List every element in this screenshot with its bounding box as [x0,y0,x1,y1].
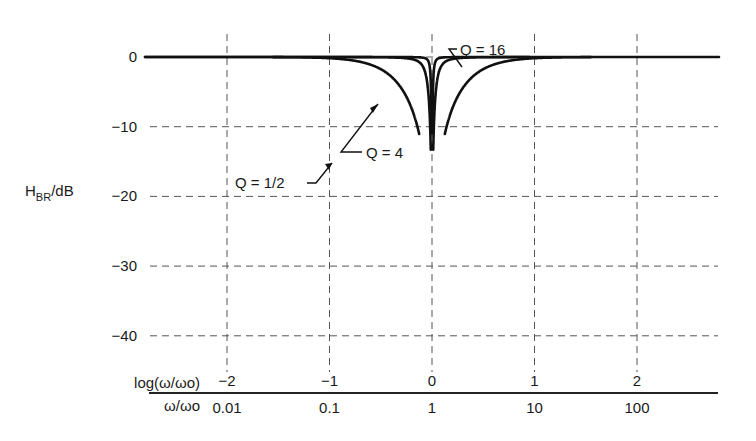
annotation-label: Q = 16 [460,41,505,58]
y-tick-label: −10 [112,118,137,135]
band-reject-filter-chart: Q = 16Q = 4Q = 1/2 0−10−20−30−40 HBR/dB … [0,0,756,441]
x-axis-log-label: log(ω/ωo) [134,374,200,391]
y-tick-label: −30 [112,257,137,274]
y-tick-label: −40 [112,327,137,344]
curve-q12 [445,57,591,134]
arrowhead-icon [325,163,332,170]
curve-q16 [145,57,432,134]
annotation-label: Q = 4 [366,144,403,161]
x-linear-tick-label: 10 [526,399,543,416]
x-log-tick-label: 2 [633,372,641,389]
y-tick-label: −20 [112,187,137,204]
y-axis-label: HBR/dB [25,182,74,203]
y-tick-label: 0 [129,48,137,65]
x-log-tick-label: 0 [428,372,436,389]
arrowhead-icon [370,104,378,113]
x-log-tick-label: −2 [218,372,235,389]
y-axis-tick-labels: 0−10−20−30−40 [112,48,137,344]
x-log-tick-label: 1 [530,372,538,389]
x-linear-tick-label: 0.1 [319,399,340,416]
x-axis-tick-labels: −20.01−10.1011102100 [212,372,649,416]
annotation-label: Q = 1/2 [235,174,285,191]
x-linear-tick-label: 0.01 [212,399,241,416]
x-linear-tick-label: 1 [428,399,436,416]
curve-q16 [432,57,719,134]
curve-q4 [145,57,431,150]
x-axis-linear-label: ω/ωo [164,397,200,414]
curve-q12 [273,57,419,134]
x-linear-tick-label: 100 [624,399,649,416]
x-log-tick-label: −1 [321,372,338,389]
